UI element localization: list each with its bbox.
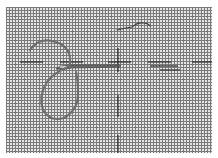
stitch-diagram bbox=[0, 0, 218, 158]
thread-loop bbox=[30, 40, 78, 119]
thread-tail bbox=[117, 23, 150, 30]
stitch-marks bbox=[150, 66, 180, 70]
